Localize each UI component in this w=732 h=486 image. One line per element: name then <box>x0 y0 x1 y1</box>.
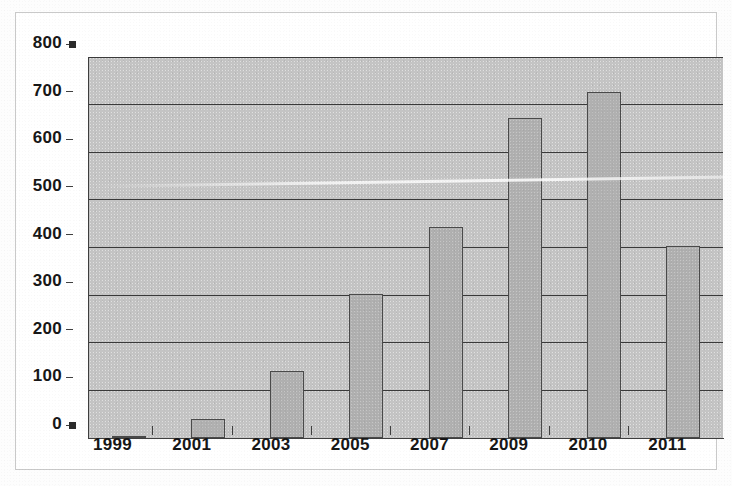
gridline-500 <box>89 199 723 200</box>
y-axis-line <box>88 57 89 439</box>
gridline-800 <box>89 57 723 58</box>
scan-artifact-streak <box>89 175 723 188</box>
x-tick-label-1999: 1999 <box>73 435 153 455</box>
bar-texture <box>509 119 541 437</box>
y-axis-endpoint-0 <box>69 422 76 429</box>
y-tick-label-300: 300 <box>18 271 62 291</box>
x-tick-label-2003: 2003 <box>231 435 311 455</box>
bar-texture <box>588 93 620 437</box>
y-tick-mark-200 <box>66 329 73 330</box>
gridline-100 <box>89 390 723 391</box>
x-tick-label-2009: 2009 <box>469 435 549 455</box>
y-tick-label-100: 100 <box>18 366 62 386</box>
gridline-600 <box>89 152 723 153</box>
x-tick-label-2005: 2005 <box>310 435 390 455</box>
gridline-700 <box>89 104 723 105</box>
bar-texture <box>667 247 699 437</box>
y-tick-mark-300 <box>66 282 73 283</box>
x-tick-mark-6 <box>549 426 550 435</box>
y-tick-mark-100 <box>66 377 73 378</box>
bar-2010 <box>587 92 621 438</box>
x-tick-label-2001: 2001 <box>152 435 232 455</box>
bar-2007 <box>429 227 463 438</box>
plot-area <box>89 57 723 438</box>
x-tick-label-2007: 2007 <box>390 435 470 455</box>
y-tick-mark-700 <box>66 91 73 92</box>
bar-texture <box>430 228 462 437</box>
bar-texture <box>271 372 303 437</box>
y-tick-label-0: 0 <box>18 414 62 434</box>
bar-2005 <box>349 294 383 438</box>
y-tick-label-600: 600 <box>18 128 62 148</box>
x-tick-mark-3 <box>311 426 312 435</box>
x-tick-mark-2 <box>232 426 233 435</box>
x-tick-mark-7 <box>628 426 629 435</box>
bar-2009 <box>508 118 542 438</box>
y-tick-label-400: 400 <box>18 224 62 244</box>
x-tick-mark-1 <box>152 426 153 435</box>
bar-2003 <box>270 371 304 438</box>
y-tick-mark-500 <box>66 186 73 187</box>
bar-2011 <box>666 246 700 438</box>
x-tick-label-2010: 2010 <box>548 435 628 455</box>
gridline-200 <box>89 342 723 343</box>
chart-page: 0100200300400500600700800 19992001200320… <box>0 0 732 486</box>
y-tick-label-800: 800 <box>18 33 62 53</box>
x-tick-mark-5 <box>469 426 470 435</box>
y-tick-mark-400 <box>66 234 73 235</box>
y-axis-endpoint-800 <box>69 41 76 48</box>
bar-texture <box>350 295 382 437</box>
y-tick-label-200: 200 <box>18 319 62 339</box>
y-tick-label-500: 500 <box>18 176 62 196</box>
x-tick-label-2011: 2011 <box>627 435 707 455</box>
gridline-400 <box>89 247 723 248</box>
figure-frame <box>15 12 717 470</box>
x-tick-mark-4 <box>390 426 391 435</box>
y-tick-mark-600 <box>66 139 73 140</box>
y-tick-label-700: 700 <box>18 81 62 101</box>
gridline-300 <box>89 295 723 296</box>
